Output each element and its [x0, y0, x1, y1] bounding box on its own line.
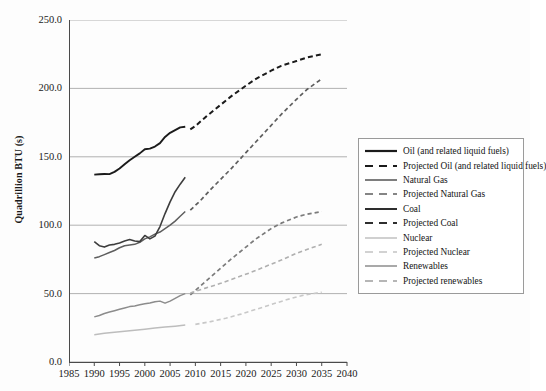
plot-svg [69, 20, 349, 372]
legend-item-label: Projected renewables [403, 276, 482, 286]
legend-line-swatch [364, 145, 398, 157]
series-line [190, 79, 321, 210]
legend-item[interactable]: Projected Nuclear [364, 245, 519, 259]
series-line [94, 325, 185, 335]
legend-item-label: Projected Coal [403, 218, 458, 228]
y-tick-label: 0.0 [18, 357, 62, 367]
chart-legend: Oil (and related liquid fuels)Projected … [358, 138, 524, 294]
series-line [94, 177, 185, 247]
y-tick-label: 150.0 [18, 152, 62, 162]
legend-item[interactable]: Coal [364, 202, 519, 216]
legend-item[interactable]: Renewables [364, 259, 519, 273]
legend-item[interactable]: Projected Coal [364, 216, 519, 230]
legend-line-swatch [364, 203, 398, 215]
legend-line-swatch [364, 246, 398, 258]
legend-line-swatch [364, 174, 398, 186]
legend-item[interactable]: Nuclear [364, 230, 519, 244]
legend-item-label: Renewables [403, 261, 448, 271]
legend-line-swatch [364, 275, 398, 287]
series-line [94, 127, 185, 175]
legend-line-swatch [364, 188, 398, 200]
series-line [190, 212, 321, 295]
series-line [195, 292, 321, 324]
legend-item[interactable]: Projected Oil (and related liquid fuels) [364, 158, 519, 172]
y-tick-label: 250.0 [18, 15, 62, 25]
legend-item[interactable]: Oil (and related liquid fuels) [364, 144, 519, 158]
legend-line-swatch [364, 160, 398, 172]
legend-line-swatch [364, 260, 398, 272]
legend-item[interactable]: Projected renewables [364, 274, 519, 288]
series-line [190, 244, 321, 293]
legend-item[interactable]: Natural Gas [364, 173, 519, 187]
legend-item-label: Projected Oil (and related liquid fuels) [403, 161, 546, 171]
y-tick-label: 200.0 [18, 83, 62, 93]
legend-line-swatch [364, 217, 398, 229]
y-tick-label: 50.0 [18, 289, 62, 299]
series-line [94, 212, 185, 259]
legend-item-label: Oil (and related liquid fuels) [403, 146, 509, 156]
legend-item-label: Projected Nuclear [403, 247, 470, 257]
legend-line-swatch [364, 232, 398, 244]
legend-item-label: Nuclear [403, 233, 432, 243]
plot-area [69, 20, 347, 362]
legend-item-label: Projected Natural Gas [403, 189, 485, 199]
series-line [190, 54, 321, 129]
legend-item[interactable]: Projected Natural Gas [364, 187, 519, 201]
y-tick-label: 100.0 [18, 220, 62, 230]
legend-item-label: Natural Gas [403, 175, 448, 185]
legend-item-label: Coal [403, 204, 421, 214]
series-line [94, 294, 185, 317]
